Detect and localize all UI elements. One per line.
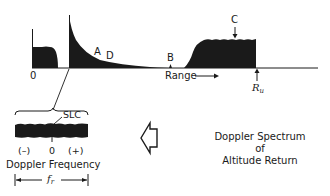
spectrum-caption: Doppler Spectrum of Altitude Return — [205, 131, 315, 167]
unambiguous-range-label: Ru — [252, 83, 264, 95]
range-axis-label: Range — [165, 71, 197, 81]
marker-b-label: B — [167, 53, 174, 63]
sidelobe-clutter-band — [15, 123, 88, 137]
far-range-clutter-plateau — [184, 39, 256, 68]
marker-a-label: A — [94, 47, 101, 57]
altitude-return-spike — [69, 15, 175, 68]
doppler-zero-label: 0 — [49, 146, 55, 156]
spectrum-leader-line — [53, 69, 69, 110]
caption-line-1: Doppler Spectrum — [205, 131, 315, 143]
doppler-positive-label: (+) — [68, 146, 83, 156]
range-origin-label: 0 — [30, 71, 36, 81]
caption-line-2: of — [205, 143, 315, 155]
slc-pointer-line — [54, 117, 62, 124]
hollow-left-arrow-icon — [141, 123, 157, 153]
marker-d-label: D — [106, 51, 114, 61]
marker-c-label: C — [231, 15, 238, 25]
doppler-axis-label: Doppler Frequency — [6, 160, 100, 170]
near-range-clutter-block — [32, 47, 58, 69]
slc-label: SLC — [63, 110, 81, 120]
marker-b-tick — [169, 64, 172, 68]
doppler-negative-label: (–) — [18, 146, 30, 156]
prf-width-label: fr — [47, 174, 54, 186]
caption-line-3: Altitude Return — [205, 155, 315, 167]
